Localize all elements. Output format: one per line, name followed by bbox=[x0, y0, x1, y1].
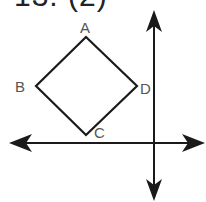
vertex-label-c: C bbox=[94, 124, 105, 141]
vertex-label-d: D bbox=[140, 80, 151, 97]
horizontal-axis bbox=[9, 134, 205, 152]
vertex-label-a: A bbox=[80, 19, 90, 36]
square-abcd bbox=[36, 37, 137, 135]
vertical-axis bbox=[146, 10, 162, 201]
diagram-canvas: 13. (2) A B C D bbox=[0, 0, 206, 202]
geometry-figure: A B C D bbox=[0, 0, 206, 202]
vertex-label-b: B bbox=[15, 78, 25, 95]
